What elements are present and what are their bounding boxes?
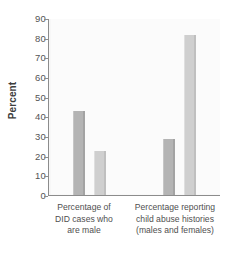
y-axis-tick-label: 40 xyxy=(0,111,46,123)
bar-chart-figure: Percent 9080706050403020100 Percentage o… xyxy=(0,0,227,256)
bar xyxy=(73,111,85,196)
y-axis-tick-label: 50 xyxy=(0,92,46,104)
y-axis-tick-label: 30 xyxy=(0,131,46,143)
x-axis-group-label-0: Percentage ofDID cases whoare male xyxy=(42,202,126,237)
x-axis-label-line: Percentage reporting xyxy=(126,202,224,214)
y-axis-tick-label: 10 xyxy=(0,170,46,182)
x-axis-group-label-1: Percentage reportingchild abuse historie… xyxy=(126,202,224,237)
y-axis-tick-label: 0 xyxy=(0,190,46,202)
plot-area xyxy=(48,19,220,196)
y-axis-tick-label: 90 xyxy=(0,13,46,25)
y-axis-tick-label: 20 xyxy=(0,151,46,163)
x-axis-label-line: child abuse histories xyxy=(126,214,224,226)
y-axis-tick-label: 60 xyxy=(0,72,46,84)
x-axis-label-line: Percentage of xyxy=(42,202,126,214)
bar xyxy=(163,139,175,196)
y-axis-tick-label: 70 xyxy=(0,52,46,64)
y-axis-tick-label: 80 xyxy=(0,33,46,45)
y-axis-tick-mark xyxy=(44,196,48,197)
bar xyxy=(94,151,106,196)
x-axis-label-line: (males and females) xyxy=(126,225,224,237)
bar xyxy=(184,35,196,196)
x-axis-label-line: DID cases who xyxy=(42,214,126,226)
x-axis-label-line: are male xyxy=(42,225,126,237)
x-axis-line xyxy=(48,195,220,196)
